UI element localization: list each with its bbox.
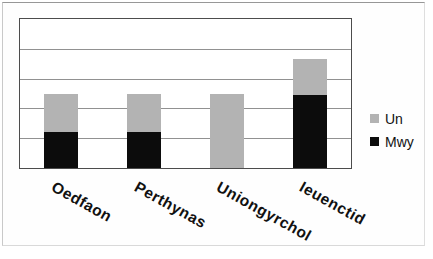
x-axis-label-ieuenctid: Ieuenctid [296, 178, 368, 229]
bar-segment-mwy-ieuenctid [293, 95, 327, 168]
gridline [20, 49, 351, 50]
legend-swatch-mwy [370, 137, 379, 146]
x-axis-label-perthynas: Perthynas [131, 178, 209, 232]
x-axis-label-oedfaon: Oedfaon [48, 178, 115, 226]
plot-area [19, 18, 352, 169]
legend-item-mwy: Mwy [370, 130, 414, 153]
legend-item-un: Un [370, 107, 414, 130]
bar-segment-mwy-perthynas [127, 132, 161, 168]
chart-image: OedfaonPerthynasUniongyrcholIeuenctid Un… [2, 2, 425, 246]
legend-label-mwy: Mwy [385, 134, 414, 150]
bar-segment-un-oedfaon [44, 94, 78, 133]
legend: Un Mwy [370, 107, 414, 153]
bar-segment-un-perthynas [127, 94, 161, 133]
legend-swatch-un [370, 114, 379, 123]
legend-label-un: Un [385, 111, 403, 127]
bar-segment-mwy-oedfaon [44, 132, 78, 168]
bar-segment-un-uniongyrchol [210, 94, 244, 169]
bar-segment-un-ieuenctid [293, 59, 327, 95]
